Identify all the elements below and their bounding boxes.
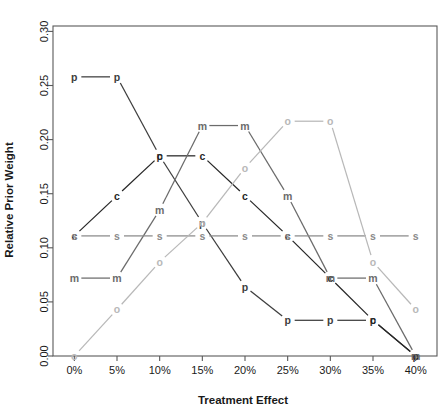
series-segment-o: [207, 173, 241, 217]
series-segment-c: [293, 241, 326, 273]
series-segment-o: [79, 315, 112, 351]
x-tick-label: 20%: [234, 364, 256, 376]
data-point-m-40%: m: [411, 350, 420, 362]
data-point-m-0%: m: [70, 272, 79, 284]
data-point-c-10%: c: [157, 150, 163, 162]
series-segment-m: [249, 132, 284, 190]
data-point-s-25%: s: [285, 230, 291, 242]
series-segment-o: [250, 126, 283, 162]
data-point-m-35%: m: [368, 272, 377, 284]
x-tick-label: 5%: [109, 364, 125, 376]
x-tick-label: 30%: [319, 364, 341, 376]
series-segment-c: [207, 161, 239, 191]
data-point-o-30%: o: [327, 115, 333, 127]
data-point-o-35%: o: [370, 256, 376, 268]
data-point-c-5%: c: [114, 190, 120, 202]
series-segment-p: [251, 291, 283, 316]
series-segment-c: [79, 201, 111, 231]
data-point-o-5%: o: [114, 303, 120, 315]
series-segment-p: [163, 162, 198, 217]
series-markers-layer: pppppppppcccccccccmmmmmmmmmsssssssssoooo…: [70, 71, 421, 362]
data-point-o-20%: o: [242, 162, 248, 174]
data-point-o-10%: o: [156, 256, 162, 268]
data-point-o-40%: o: [412, 303, 418, 315]
data-point-s-15%: s: [199, 230, 205, 242]
x-axis-title: Treatment Effect: [198, 394, 288, 406]
data-point-s-5%: s: [114, 230, 120, 242]
series-segment-o: [122, 267, 155, 304]
data-point-o-15%: o: [199, 217, 205, 229]
series-lines-layer: [79, 77, 412, 352]
data-point-s-40%: s: [413, 230, 419, 242]
data-point-p-0%: p: [71, 71, 77, 83]
data-point-p-20%: p: [242, 281, 248, 293]
y-tick-label: 0.15: [38, 183, 50, 204]
series-segment-m: [376, 284, 412, 350]
chart-container: 0.000.050.100.150.200.250.30 0%5%10%15%2…: [0, 0, 448, 413]
y-tick-label: 0.05: [38, 291, 50, 312]
series-segment-p: [206, 229, 241, 281]
y-tick-label: 0.30: [38, 21, 50, 42]
y-tick-label: 0.00: [38, 345, 50, 366]
data-point-s-0%: s: [71, 230, 77, 242]
data-point-p-5%: p: [114, 71, 120, 83]
series-segment-c: [335, 283, 368, 315]
series-segment-m: [121, 216, 156, 272]
data-point-s-10%: s: [157, 230, 163, 242]
series-segment-m: [163, 132, 199, 204]
data-point-p-25%: p: [284, 314, 290, 326]
x-tick-label: 40%: [405, 364, 427, 376]
data-point-c-20%: c: [242, 190, 248, 202]
data-point-m-25%: m: [283, 190, 292, 202]
data-point-c-15%: c: [199, 150, 205, 162]
series-segment-p: [120, 83, 156, 150]
series-segment-o: [165, 228, 197, 258]
y-axis-title: Relative Prior Weight: [3, 142, 15, 258]
x-tick-label: 0%: [66, 364, 82, 376]
data-point-s-20%: s: [242, 230, 248, 242]
y-tick-label: 0.10: [38, 237, 50, 258]
y-tick-label: 0.25: [38, 75, 50, 96]
x-tick-label: 10%: [149, 364, 171, 376]
series-segment-c: [250, 201, 282, 231]
data-point-m-10%: m: [155, 204, 164, 216]
data-point-p-30%: p: [327, 314, 333, 326]
series-segment-o: [378, 267, 411, 304]
data-point-s-35%: s: [370, 230, 376, 242]
data-point-m-5%: m: [112, 272, 121, 284]
x-tick-label: 35%: [362, 364, 384, 376]
data-point-m-30%: m: [326, 272, 335, 284]
data-point-s-30%: s: [327, 230, 333, 242]
series-segment-m: [291, 202, 327, 272]
y-tick-label: 0.20: [38, 129, 50, 150]
data-point-m-15%: m: [198, 120, 207, 132]
data-point-m-20%: m: [240, 120, 249, 132]
data-point-o-0%: o: [71, 350, 77, 362]
series-segment-c: [122, 161, 154, 191]
prior-weight-line-chart: 0.000.050.100.150.200.250.30 0%5%10%15%2…: [0, 0, 448, 413]
x-tick-label: 25%: [277, 364, 299, 376]
data-point-c-35%: c: [370, 314, 376, 326]
x-axis-ticks: 0%5%10%15%20%25%30%35%40%: [66, 356, 427, 376]
y-axis-ticks: 0.000.050.100.150.200.250.30: [38, 21, 53, 367]
data-point-o-25%: o: [284, 115, 290, 127]
x-tick-label: 15%: [191, 364, 213, 376]
